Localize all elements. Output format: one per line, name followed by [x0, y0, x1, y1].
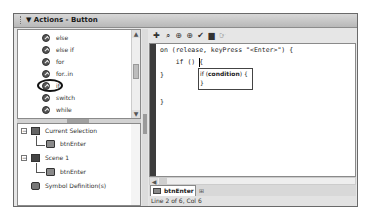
check-syntax-crosshair-icon[interactable]: ⊕ — [185, 31, 194, 40]
navigator-scrollbar[interactable] — [131, 124, 140, 205]
vertical-splitter[interactable] — [142, 29, 148, 206]
code-hint-tooltip: if (condition) { } — [198, 68, 253, 90]
script-pane: ✚ ⌕ ⊕ ⊕ ✔ ▆ ☞ on (release, keyPress "<En… — [149, 29, 356, 206]
tree-connector — [36, 136, 45, 146]
show-code-hint-icon[interactable]: ☞ — [218, 31, 227, 40]
action-item-else[interactable]: else — [42, 32, 68, 44]
nav-item-btnenter-scene[interactable]: btnEnter — [46, 167, 86, 177]
nav-item-symbol-definitions[interactable]: Symbol Definition(s) — [31, 181, 106, 191]
text-caret — [199, 58, 200, 67]
status-bar: Line 2 of 6, Col 6 — [149, 196, 356, 206]
check-syntax-icon[interactable]: ✔ — [196, 31, 205, 40]
script-toolbar: ✚ ⌕ ⊕ ⊕ ✔ ▆ ☞ — [149, 29, 356, 42]
insert-target-path-icon[interactable]: ⊕ — [174, 31, 183, 40]
collapse-arrow-icon[interactable]: ▼ — [26, 16, 31, 24]
hint-close: } — [200, 79, 204, 86]
auto-format-icon[interactable]: ▆ — [207, 31, 216, 40]
code-line-5[interactable]: } — [160, 98, 164, 107]
code-line-2[interactable]: if () { — [160, 58, 203, 67]
code-hscrollbar[interactable]: ◀ — [149, 177, 356, 185]
code-line-3[interactable]: } — [160, 71, 164, 80]
code-editor[interactable]: on (release, keyPress "<Enter>") { if ()… — [149, 43, 356, 177]
symbol-definitions-icon — [31, 182, 40, 190]
action-item-for[interactable]: for — [42, 56, 64, 68]
scene-icon — [31, 154, 40, 162]
panel-titlebar[interactable]: ▼ Actions - Button — [14, 14, 357, 28]
script-navigator: − Current Selection btnEnter − Scene 1 b… — [17, 123, 141, 206]
nav-item-current-selection[interactable]: Current Selection — [31, 126, 97, 136]
nav-item-scene-1[interactable]: Scene 1 — [31, 153, 69, 163]
nav-item-btnenter[interactable]: btnEnter — [46, 139, 86, 149]
action-item-switch[interactable]: switch — [42, 92, 75, 104]
splitter-grab-handle[interactable] — [143, 114, 147, 134]
line-gutter — [150, 44, 156, 176]
action-item-while[interactable]: while — [42, 104, 72, 116]
hscroll-thumb[interactable] — [159, 178, 167, 184]
scroll-thumb[interactable] — [133, 64, 139, 79]
scroll-down-icon[interactable]: ▼ — [132, 110, 140, 118]
hint-prefix: if ( — [200, 70, 208, 77]
actions-list-scrollbar[interactable]: ▲ ▼ — [131, 30, 140, 118]
hint-suffix: ) { — [240, 70, 248, 77]
action-circle-icon — [42, 94, 50, 102]
action-circle-icon — [42, 106, 50, 114]
collapse-icon[interactable]: − — [21, 128, 27, 134]
action-circle-icon — [42, 34, 50, 42]
current-selection-icon — [31, 127, 40, 135]
panel-title: Actions - Button — [34, 16, 98, 24]
scroll-up-icon[interactable]: ▲ — [132, 30, 140, 38]
find-icon[interactable]: ⌕ — [163, 31, 172, 40]
add-statement-icon[interactable]: ✚ — [152, 31, 161, 40]
highlight-circle-annotation — [37, 79, 63, 92]
button-symbol-icon — [46, 140, 55, 148]
panel-grip[interactable] — [20, 16, 23, 24]
tree-connector — [36, 163, 45, 173]
scroll-left-icon[interactable]: ◀ — [150, 178, 158, 185]
actions-toolbox-list: else else if for for..in if switch while… — [17, 29, 141, 119]
actions-panel: ▼ Actions - Button else else if for for.… — [13, 13, 358, 207]
button-symbol-icon — [46, 168, 55, 176]
action-circle-icon — [42, 70, 50, 78]
action-circle-icon — [42, 58, 50, 66]
collapse-icon[interactable]: − — [21, 155, 27, 161]
action-circle-icon — [42, 46, 50, 54]
button-symbol-icon — [153, 188, 161, 194]
pin-script-icon[interactable]: ⊞ — [199, 187, 206, 194]
tab-btnenter[interactable]: btnEnter — [150, 185, 196, 196]
hint-param: condition — [208, 70, 240, 77]
action-item-else-if[interactable]: else if — [42, 44, 74, 56]
code-line-1[interactable]: on (release, keyPress "<Enter>") { — [160, 46, 293, 55]
